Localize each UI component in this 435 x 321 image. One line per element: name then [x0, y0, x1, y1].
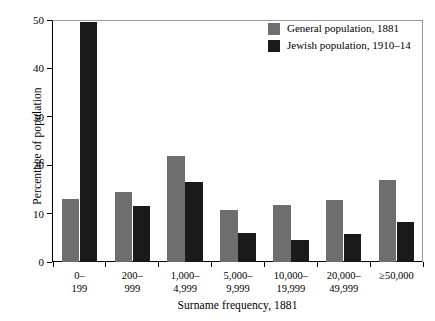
y-tick-mark: [47, 165, 52, 166]
bar: [273, 205, 291, 262]
bar: [80, 22, 98, 262]
bar: [220, 210, 238, 262]
legend-label: Jewish population, 1910–14: [287, 39, 411, 52]
y-tick-mark: [47, 262, 52, 263]
x-tick-mark: [211, 262, 212, 267]
bar: [326, 200, 344, 262]
bar: [238, 233, 256, 262]
bar: [379, 180, 397, 262]
x-tick-mark: [158, 262, 159, 267]
x-tick-label: ≥50,000: [362, 270, 431, 283]
legend-item: General population, 1881: [268, 22, 411, 35]
x-axis-title: Surname frequency, 1881: [52, 299, 423, 311]
bar-chart: Percentage of population 01020304050 0–1…: [0, 0, 435, 321]
bars-layer: [53, 20, 423, 262]
bar: [291, 240, 309, 262]
y-tick-label: 30: [33, 109, 44, 125]
bar: [344, 234, 362, 262]
bar: [62, 199, 80, 262]
y-tick-mark: [47, 213, 52, 214]
chart-legend: General population, 1881Jewish populatio…: [268, 22, 411, 52]
x-tick-mark: [317, 262, 318, 267]
bar: [185, 182, 203, 262]
y-tick-label: 0: [39, 254, 45, 270]
x-tick-mark: [53, 262, 54, 267]
x-tick-mark: [370, 262, 371, 267]
legend-item: Jewish population, 1910–14: [268, 39, 411, 52]
y-tick-mark: [47, 68, 52, 69]
y-tick-mark: [47, 116, 52, 117]
x-tick-mark: [264, 262, 265, 267]
legend-label: General population, 1881: [287, 22, 399, 35]
legend-swatch: [268, 23, 280, 35]
x-tick-mark: [105, 262, 106, 267]
bar: [115, 192, 133, 262]
legend-swatch: [268, 40, 280, 52]
y-tick-label: 40: [33, 60, 44, 76]
y-tick-mark: [47, 20, 52, 21]
bar: [167, 156, 185, 262]
y-tick-label: 20: [33, 157, 44, 173]
x-tick-mark: [423, 262, 424, 267]
bar: [397, 222, 415, 262]
bar: [133, 206, 151, 262]
y-tick-label: 50: [33, 12, 44, 28]
y-tick-label: 10: [33, 206, 44, 222]
